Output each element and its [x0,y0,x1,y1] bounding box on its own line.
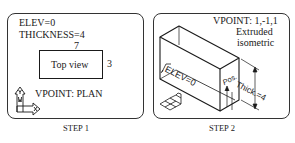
extruded-label: Extruded [236,27,273,37]
isometric-label: isometric [237,38,274,48]
vpoint-iso-label: VPOINT: 1,-1,1 [213,16,278,26]
step2-caption: STEP 2 [209,123,235,133]
ucs-isometric-icon [160,93,181,110]
